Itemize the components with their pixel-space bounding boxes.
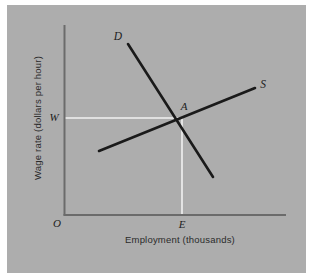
supply-curve-label: S [260, 78, 266, 90]
equilibrium-employment-label: E [178, 218, 186, 230]
x-axis-title: Employment (thousands) [125, 234, 235, 245]
equilibrium-point-label: A [180, 100, 188, 112]
figure-container: D S A W E O Employment (thousands) Wage … [0, 0, 313, 279]
origin-label: O [53, 217, 61, 229]
supply-demand-chart: D S A W E O Employment (thousands) Wage … [0, 0, 313, 279]
demand-curve-label: D [113, 30, 123, 42]
equilibrium-wage-label: W [49, 111, 59, 123]
y-axis-title: Wage rate (dollars per hour) [32, 56, 43, 180]
